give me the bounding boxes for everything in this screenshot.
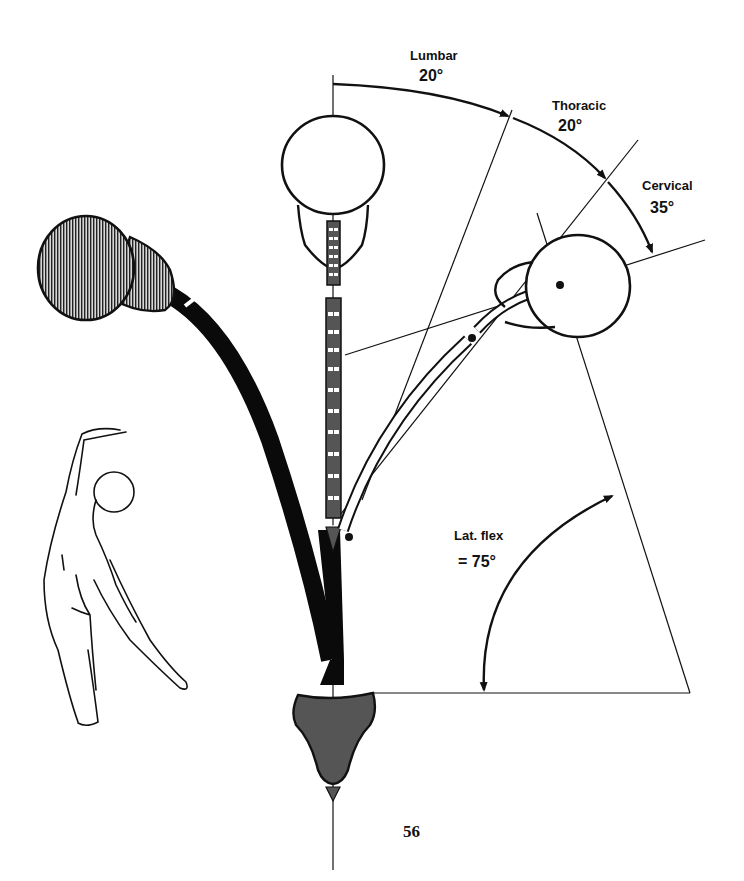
- cervical-degrees: 35°: [650, 199, 674, 217]
- thoracic-degrees: 20°: [558, 117, 582, 135]
- cervical-label: Cervical: [642, 178, 693, 193]
- thoracic-label: Thoracic: [552, 98, 606, 113]
- coccyx-triangle: [326, 787, 340, 801]
- right-flexed-figure: [343, 235, 630, 541]
- center-upright-figure: [282, 116, 384, 552]
- pelvis: [293, 693, 374, 784]
- human-side-bend-figure: [44, 429, 187, 726]
- spine-lateral-flexion-diagram: Lumbar 20° Thoracic 20° Cervical 35° Lat…: [0, 0, 744, 881]
- page-number: 56: [403, 822, 420, 842]
- left-flexed-figure: [38, 216, 344, 660]
- diagram-canvas: [0, 0, 744, 881]
- head-center-dot: [556, 281, 564, 289]
- lumbar-degrees: 20°: [419, 67, 443, 85]
- cervical-vertebrae: [327, 221, 340, 285]
- lateral-flexion-total: = 75°: [458, 553, 496, 571]
- lateral-flexion-label: Lat. flex: [454, 528, 503, 543]
- lateral-flexion-arc: [484, 496, 612, 690]
- lumbar-label: Lumbar: [410, 48, 458, 63]
